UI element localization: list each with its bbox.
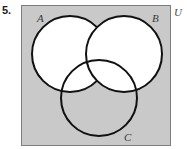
set-circle-b xyxy=(86,16,162,92)
problem-number-label: 5. xyxy=(2,4,11,16)
set-label-a: A xyxy=(37,13,44,24)
set-label-b: B xyxy=(152,13,159,24)
set-label-c: C xyxy=(124,132,131,143)
venn-circles-group xyxy=(21,5,173,148)
universal-set-label: U xyxy=(174,7,182,18)
venn-diagram-figure: 5. A B C U xyxy=(0,0,187,149)
